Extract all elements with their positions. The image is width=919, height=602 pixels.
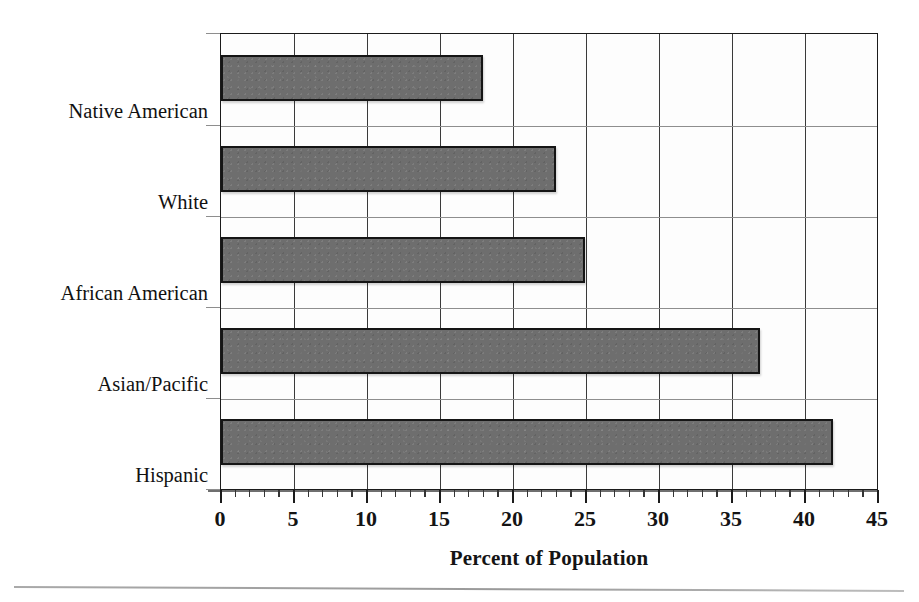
xtick-minor-13: [410, 490, 411, 497]
plot-area: [220, 33, 878, 490]
bar-native-american: [221, 55, 483, 101]
xtick-label-20: 20: [482, 506, 542, 532]
page-divider-rule: [14, 586, 904, 592]
xtick-minor-21: [527, 490, 528, 497]
category-separator-2: [221, 217, 877, 218]
xtick-minor-29: [643, 490, 644, 497]
y-axis-label-african-american: African American: [8, 282, 208, 304]
xtick-minor-16: [454, 490, 455, 497]
xtick-minor-3: [264, 490, 265, 497]
xtick-minor-8: [337, 490, 338, 497]
xtick-minor-6: [308, 490, 309, 497]
xtick-minor-37: [760, 490, 761, 497]
xtick-label-35: 35: [701, 506, 761, 532]
xtick-minor-42: [833, 490, 834, 497]
xtick-label-40: 40: [774, 506, 834, 532]
xtick-minor-39: [789, 490, 790, 497]
xtick-major-35: [731, 490, 733, 503]
xtick-minor-34: [716, 490, 717, 497]
category-tick-1: [206, 125, 220, 126]
bar-hispanic: [221, 419, 833, 465]
xtick-major-25: [585, 490, 587, 503]
category-separator-4: [221, 399, 877, 400]
category-tick-3: [206, 307, 220, 308]
xtick-major-20: [512, 490, 514, 503]
xtick-minor-11: [381, 490, 382, 497]
xtick-minor-28: [629, 490, 630, 497]
xtick-minor-26: [600, 490, 601, 497]
bar-asian-pacific: [221, 328, 760, 374]
xtick-minor-14: [424, 490, 425, 497]
x-axis: 0 5 10 15 20 25 30 35 40 45: [220, 490, 878, 491]
xtick-minor-41: [819, 490, 820, 497]
category-separator-1: [221, 126, 877, 127]
xtick-label-45: 45: [847, 506, 907, 532]
xtick-minor-4: [278, 490, 279, 497]
xtick-major-30: [658, 490, 660, 503]
xtick-label-10: 10: [336, 506, 396, 532]
category-separator-3: [221, 308, 877, 309]
xtick-major-15: [439, 490, 441, 503]
y-axis-label-hispanic: Hispanic: [8, 464, 208, 486]
xtick-label-15: 15: [409, 506, 469, 532]
xtick-minor-31: [673, 490, 674, 497]
xtick-minor-17: [468, 490, 469, 497]
xtick-minor-24: [570, 490, 571, 497]
y-axis-label-native-american: Native American: [8, 100, 208, 122]
bar-african-american: [221, 237, 585, 283]
xtick-major-0: [220, 490, 222, 503]
xtick-label-25: 25: [555, 506, 615, 532]
y-axis-labels: Native American White African American A…: [0, 33, 208, 490]
xtick-minor-33: [702, 490, 703, 497]
xtick-label-0: 0: [190, 506, 250, 532]
xtick-major-5: [293, 490, 295, 503]
xtick-minor-32: [687, 490, 688, 497]
xtick-minor-19: [497, 490, 498, 497]
xtick-minor-43: [848, 490, 849, 497]
y-axis-label-white: White: [8, 191, 208, 213]
xtick-major-40: [804, 490, 806, 503]
xtick-minor-23: [556, 490, 557, 497]
bar-chart-figure: Native American White African American A…: [0, 0, 919, 602]
xtick-minor-27: [614, 490, 615, 497]
xtick-minor-22: [541, 490, 542, 497]
xtick-minor-36: [746, 490, 747, 497]
xtick-major-45: [877, 490, 879, 503]
xtick-minor-44: [862, 490, 863, 497]
category-tick-2: [206, 216, 220, 217]
xtick-label-30: 30: [628, 506, 688, 532]
xtick-minor-7: [322, 490, 323, 497]
xtick-major-10: [366, 490, 368, 503]
category-tick-top: [206, 33, 220, 34]
xtick-label-5: 5: [263, 506, 323, 532]
y-axis-label-asian-pacific: Asian/Pacific: [8, 373, 208, 395]
category-tick-4: [206, 398, 220, 399]
x-axis-title: Percent of Population: [220, 546, 878, 571]
xtick-minor-1: [235, 490, 236, 497]
xtick-minor-9: [351, 490, 352, 497]
xtick-minor-18: [483, 490, 484, 497]
xtick-minor-2: [249, 490, 250, 497]
bar-white: [221, 146, 556, 192]
xtick-minor-12: [395, 490, 396, 497]
xtick-minor-38: [775, 490, 776, 497]
